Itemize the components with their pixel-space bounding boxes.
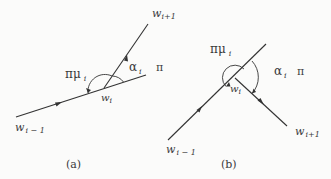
angle-arc-alpha — [252, 61, 258, 94]
label-w-next: wi+1 — [295, 125, 320, 139]
angle-arc-alpha — [113, 76, 124, 82]
label-alpha: αi — [274, 64, 287, 80]
label-w-prev: wi − 1 — [15, 121, 45, 135]
edge-incoming — [168, 44, 266, 140]
caption-b: (b) — [221, 158, 237, 171]
label-pi-mu: πμi — [65, 67, 87, 83]
label-w-cur: wi — [230, 83, 242, 96]
label-pi: π — [297, 65, 304, 78]
label-w-next: wi+1 — [152, 7, 176, 21]
arrow-icon — [55, 102, 62, 107]
edge-outgoing — [104, 24, 148, 88]
label-pi: π — [156, 61, 163, 74]
caption-a: (a) — [66, 158, 81, 171]
label-w-prev: wi − 1 — [166, 143, 196, 157]
panel-b: πμi αi π wi wi+1 wi − 1 (b) — [166, 42, 320, 171]
label-alpha: αi — [129, 60, 142, 76]
polygon-vertex-angle-diagram: wi+1 αi π πμi wi wi − 1 (a) πμi αi π wi … — [0, 0, 331, 179]
panel-a: wi+1 αi π πμi wi wi − 1 (a) — [15, 7, 176, 171]
label-w-cur: wi — [101, 92, 113, 105]
label-pi-mu: πμi — [210, 42, 232, 58]
edge-incoming — [16, 75, 146, 117]
